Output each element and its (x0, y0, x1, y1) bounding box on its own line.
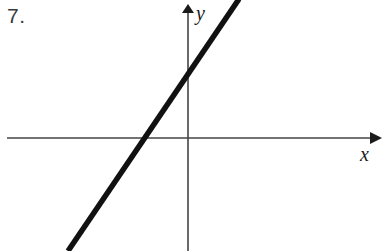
x-axis-arrowhead-icon (370, 132, 382, 144)
y-axis-arrowhead-icon (182, 4, 194, 13)
x-axis-label: x (360, 144, 369, 164)
y-axis-label: y (196, 3, 205, 23)
plotted-line (68, 0, 239, 251)
coordinate-plane-svg (0, 0, 384, 251)
graph-figure: 7. y x (0, 0, 384, 251)
